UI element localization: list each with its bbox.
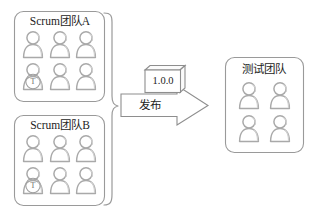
team-b-member-4-badge: T: [31, 181, 36, 190]
scrum-team-b-box[interactable]: Scrum团队B T: [15, 116, 105, 206]
release-arrow-label: 发布: [139, 98, 161, 111]
scrum-team-a-title: Scrum团队A: [30, 14, 91, 27]
release-version-label: 1.0.0: [153, 75, 174, 86]
diagram-canvas: Scrum团队A T Scru: [0, 0, 319, 221]
team-a-member-4-badge: T: [31, 77, 36, 86]
test-team-box[interactable]: 测试团队: [226, 58, 304, 153]
scrum-team-b-title: Scrum团队B: [30, 118, 90, 131]
scrum-group-brace: [104, 13, 118, 205]
scrum-team-a-box[interactable]: Scrum团队A T: [15, 12, 105, 102]
test-team-title: 测试团队: [242, 62, 287, 75]
release-package-cube[interactable]: 1.0.0: [145, 66, 185, 93]
